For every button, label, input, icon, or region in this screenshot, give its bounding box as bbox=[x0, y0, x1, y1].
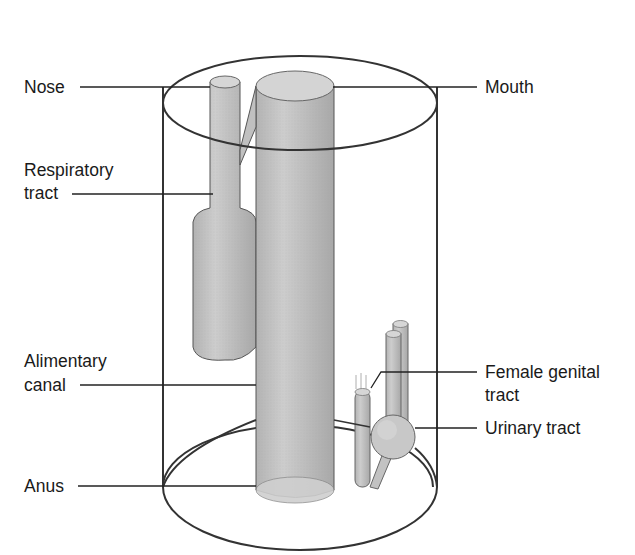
label-alimentary-line1: Alimentary bbox=[24, 351, 107, 371]
label-nose: Nose bbox=[24, 77, 65, 97]
label-respiratory-line1: Respiratory bbox=[24, 160, 113, 180]
label-female-genital-line1: Female genital bbox=[485, 362, 600, 382]
label-respiratory-line2: tract bbox=[24, 183, 58, 203]
label-anus: Anus bbox=[24, 476, 64, 496]
label-mouth: Mouth bbox=[485, 77, 534, 97]
label-alimentary-line2: canal bbox=[24, 375, 66, 395]
label-urinary: Urinary tract bbox=[485, 418, 580, 438]
respiratory-tract-tube bbox=[193, 76, 256, 360]
female-genital-tube-front bbox=[355, 373, 370, 487]
label-female-genital-line2: tract bbox=[485, 385, 519, 405]
body-tracts-diagram bbox=[0, 0, 635, 555]
